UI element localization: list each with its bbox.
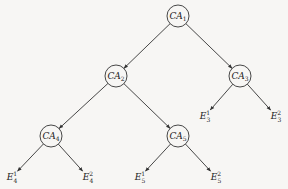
node-label: E15 [134,170,146,184]
node-E3_1: E13 [199,109,211,123]
edge-CA5-to-E5_1 [145,144,170,171]
node-E4_2: E24 [82,170,94,184]
nodes: CA1CA2CA3CA4CA5E13E23E14E24E15E25 [6,5,282,184]
edge-CA2-to-CA5 [124,84,170,129]
node-label: E14 [6,170,18,184]
node-label: CA3 [231,71,248,82]
node-label: CA2 [107,71,124,82]
edge-CA1-to-CA2 [124,24,170,69]
node-CA3: CA3 [229,65,251,87]
node-E4_1: E14 [6,170,18,184]
node-CA5: CA5 [167,125,189,147]
edge-CA1-to-CA3 [186,24,232,69]
node-label: CA1 [169,11,186,22]
node-label: E23 [270,109,282,123]
node-CA4: CA4 [40,125,62,147]
node-CA2: CA2 [105,65,127,87]
edge-CA2-to-CA4 [59,83,108,128]
node-label: E25 [210,170,222,184]
node-label: E24 [82,170,94,184]
node-CA1: CA1 [167,5,189,27]
node-label: CA5 [169,131,186,142]
edge-CA4-to-E4_1 [18,144,44,171]
ca-hierarchy-tree: CA1CA2CA3CA4CA5E13E23E14E24E15E25 [0,0,288,189]
edges [18,24,271,172]
edge-CA3-to-E3_1 [210,84,232,110]
edge-CA5-to-E5_2 [185,144,210,171]
node-E3_2: E23 [270,109,282,123]
node-label: E13 [199,109,211,123]
node-E5_1: E15 [134,170,146,184]
edge-CA4-to-E4_2 [58,144,82,171]
node-E5_2: E25 [210,170,222,184]
node-label: CA4 [42,131,59,142]
edge-CA3-to-E3_2 [247,84,270,110]
